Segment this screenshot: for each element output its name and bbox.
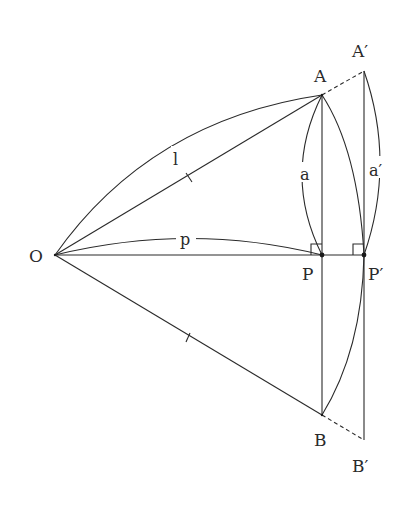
label-A: A bbox=[313, 66, 327, 86]
label-B-prime: B′ bbox=[352, 456, 368, 476]
point-P-prime bbox=[362, 253, 367, 258]
diagram-canvas: O A A′ P P′ B B′ l p a a′ bbox=[0, 0, 407, 506]
point-B bbox=[321, 414, 323, 416]
label-arc-l: l bbox=[173, 150, 178, 169]
label-P-prime: P′ bbox=[368, 264, 383, 284]
label-arc-a: a bbox=[300, 165, 310, 184]
point-A bbox=[321, 94, 323, 96]
segment-OB bbox=[55, 255, 322, 415]
point-O bbox=[54, 254, 56, 256]
geometry-diagram: O A A′ P P′ B B′ l p a a′ bbox=[0, 0, 407, 506]
label-B: B bbox=[314, 430, 327, 450]
label-P: P bbox=[302, 264, 313, 284]
dashed-A-to-A-prime bbox=[322, 71, 364, 95]
arc-P-prime-to-B bbox=[322, 255, 364, 415]
label-A-prime: A′ bbox=[351, 41, 368, 61]
arc-A-to-P-prime bbox=[322, 95, 364, 255]
label-arc-p: p bbox=[180, 230, 190, 249]
label-O: O bbox=[29, 246, 43, 266]
point-P bbox=[320, 253, 325, 258]
label-arc-a-prime: a′ bbox=[369, 161, 383, 180]
dashed-B-to-B-prime bbox=[322, 415, 364, 440]
